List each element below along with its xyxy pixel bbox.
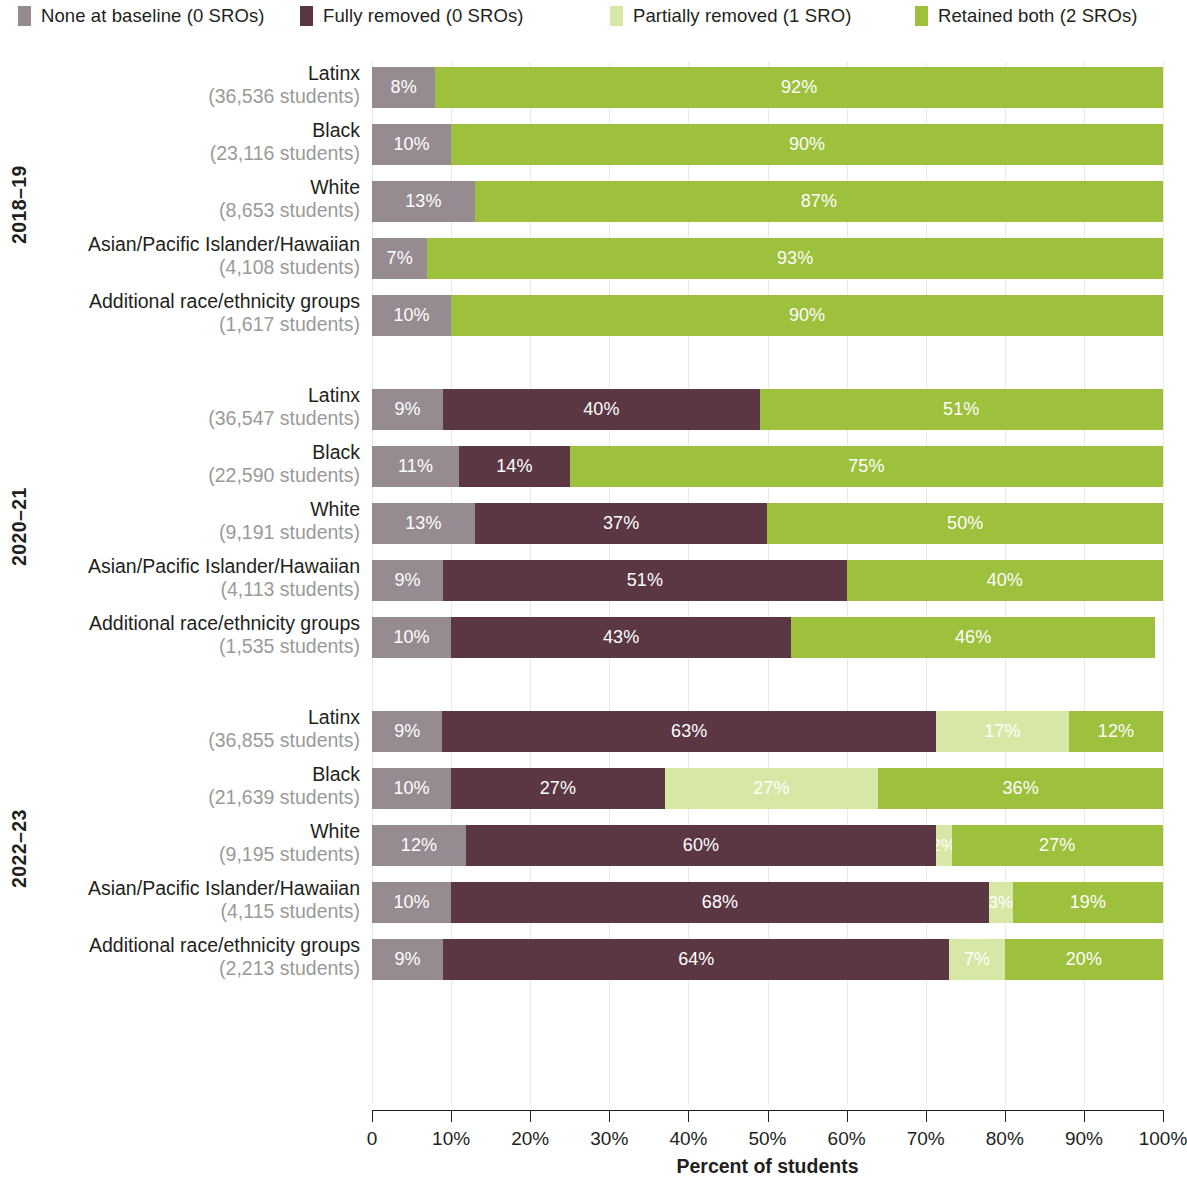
stacked-bar[interactable]: 10%27%27%36% <box>372 768 1163 809</box>
bar-segment[interactable]: 43% <box>451 617 791 658</box>
bar-segment[interactable]: 17% <box>936 711 1069 752</box>
stacked-bar[interactable]: 13%37%50% <box>372 503 1163 544</box>
bar-segment[interactable]: 64% <box>443 939 949 980</box>
stacked-bar[interactable]: 12%60%2%27% <box>372 825 1163 866</box>
bar-segment[interactable]: 13% <box>372 503 475 544</box>
bar-row-label: Latinx(36,855 students) <box>40 706 360 751</box>
bar-segment[interactable]: 9% <box>372 389 443 430</box>
x-axis-tick-label: 20% <box>511 1128 549 1150</box>
bar-segment[interactable]: 11% <box>372 446 459 487</box>
bar-row[interactable]: Additional race/ethnicity groups(1,617 s… <box>0 290 1187 347</box>
bar-segment-value: 64% <box>678 949 714 970</box>
bar-segment[interactable]: 36% <box>878 768 1163 809</box>
bar-segment[interactable]: 87% <box>475 181 1163 222</box>
stacked-bar-chart: 2018–19Latinx(36,536 students)8%92%Black… <box>0 0 1187 1187</box>
bar-segment[interactable]: 14% <box>459 446 570 487</box>
bar-row[interactable]: White(8,653 students)13%87% <box>0 176 1187 233</box>
bar-segment-value: 10% <box>393 778 429 799</box>
stacked-bar[interactable]: 9%40%51% <box>372 389 1163 430</box>
bar-row-count: (36,536 students) <box>40 85 360 108</box>
bar-segment-value: 27% <box>1039 835 1075 856</box>
bar-segment[interactable]: 10% <box>372 617 451 658</box>
bar-segment[interactable]: 37% <box>475 503 768 544</box>
stacked-bar[interactable]: 11%14%75% <box>372 446 1163 487</box>
bar-segment[interactable]: 50% <box>767 503 1163 544</box>
bar-segment-value: 87% <box>801 191 837 212</box>
bar-row[interactable]: White(9,191 students)13%37%50% <box>0 498 1187 555</box>
bar-segment[interactable]: 60% <box>466 825 936 866</box>
bar-segment[interactable]: 27% <box>665 768 879 809</box>
x-axis-tick-label: 90% <box>1065 1128 1103 1150</box>
stacked-bar[interactable]: 9%51%40% <box>372 560 1163 601</box>
bar-segment[interactable]: 90% <box>451 295 1163 336</box>
bar-row-label: White(9,191 students) <box>40 498 360 543</box>
bar-segment-value: 40% <box>987 570 1023 591</box>
bar-segment-value: 63% <box>671 721 707 742</box>
x-axis-tick <box>847 1110 848 1122</box>
x-axis-tick-label: 0 <box>367 1128 378 1150</box>
bar-segment[interactable]: 27% <box>952 825 1163 866</box>
bar-row-category: Latinx <box>40 62 360 85</box>
bar-row[interactable]: Black(23,116 students)10%90% <box>0 119 1187 176</box>
bar-segment-value: 9% <box>394 570 420 591</box>
year-group-1: 2020–21Latinx(36,547 students)9%40%51%Bl… <box>0 384 1187 669</box>
bar-segment[interactable]: 51% <box>443 560 846 601</box>
bar-row[interactable]: White(9,195 students)12%60%2%27% <box>0 820 1187 877</box>
bar-segment[interactable]: 51% <box>760 389 1163 430</box>
bar-row[interactable]: Asian/Pacific Islander/Hawaiian(4,113 st… <box>0 555 1187 612</box>
bar-segment[interactable]: 10% <box>372 295 451 336</box>
stacked-bar[interactable]: 10%68%3%19% <box>372 882 1163 923</box>
bar-segment[interactable]: 9% <box>372 560 443 601</box>
stacked-bar[interactable]: 10%43%46% <box>372 617 1163 658</box>
bar-segment-value: 46% <box>955 627 991 648</box>
bar-segment[interactable]: 9% <box>372 939 443 980</box>
bar-row[interactable]: Black(22,590 students)11%14%75% <box>0 441 1187 498</box>
bar-row-count: (36,547 students) <box>40 407 360 430</box>
bar-segment[interactable]: 68% <box>451 882 989 923</box>
bar-segment[interactable]: 93% <box>427 238 1163 279</box>
stacked-bar[interactable]: 9%64%7%20% <box>372 939 1163 980</box>
bar-segment[interactable]: 92% <box>435 67 1163 108</box>
bar-segment[interactable]: 9% <box>372 711 442 752</box>
bar-segment[interactable]: 7% <box>372 238 427 279</box>
stacked-bar[interactable]: 13%87% <box>372 181 1163 222</box>
stacked-bar[interactable]: 7%93% <box>372 238 1163 279</box>
bar-segment[interactable]: 20% <box>1005 939 1163 980</box>
bar-row[interactable]: Asian/Pacific Islander/Hawaiian(4,115 st… <box>0 877 1187 934</box>
bar-segment[interactable]: 46% <box>791 617 1155 658</box>
stacked-bar[interactable]: 9%63%17%12% <box>372 711 1163 752</box>
bar-segment[interactable]: 75% <box>570 446 1163 487</box>
bar-segment[interactable]: 19% <box>1013 882 1163 923</box>
bar-segment[interactable]: 3% <box>989 882 1013 923</box>
bar-segment[interactable]: 8% <box>372 67 435 108</box>
bar-segment[interactable]: 12% <box>1069 711 1163 752</box>
bar-row[interactable]: Additional race/ethnicity groups(1,535 s… <box>0 612 1187 669</box>
bar-segment[interactable]: 10% <box>372 124 451 165</box>
bar-segment[interactable]: 7% <box>949 939 1004 980</box>
bar-segment[interactable]: 90% <box>451 124 1163 165</box>
bar-row[interactable]: Latinx(36,855 students)9%63%17%12% <box>0 706 1187 763</box>
bar-row[interactable]: Additional race/ethnicity groups(2,213 s… <box>0 934 1187 991</box>
bar-segment-value: 50% <box>947 513 983 534</box>
bar-segment-value: 68% <box>702 892 738 913</box>
bar-row[interactable]: Latinx(36,547 students)9%40%51% <box>0 384 1187 441</box>
bar-segment[interactable]: 63% <box>442 711 935 752</box>
stacked-bar[interactable]: 10%90% <box>372 295 1163 336</box>
bar-row-label: Additional race/ethnicity groups(2,213 s… <box>40 934 360 979</box>
bar-row-count: (23,116 students) <box>40 142 360 165</box>
stacked-bar[interactable]: 8%92% <box>372 67 1163 108</box>
bar-segment[interactable]: 10% <box>372 882 451 923</box>
bar-segment[interactable]: 40% <box>443 389 759 430</box>
bar-segment[interactable]: 40% <box>847 560 1163 601</box>
stacked-bar[interactable]: 10%90% <box>372 124 1163 165</box>
bar-row[interactable]: Black(21,639 students)10%27%27%36% <box>0 763 1187 820</box>
bar-row[interactable]: Asian/Pacific Islander/Hawaiian(4,108 st… <box>0 233 1187 290</box>
x-axis-title: Percent of students <box>372 1155 1163 1178</box>
bar-segment[interactable]: 12% <box>372 825 466 866</box>
bar-segment[interactable]: 2% <box>936 825 952 866</box>
bar-segment[interactable]: 13% <box>372 181 475 222</box>
bar-row[interactable]: Latinx(36,536 students)8%92% <box>0 62 1187 119</box>
bar-segment[interactable]: 10% <box>372 768 451 809</box>
bar-segment-value: 7% <box>387 248 413 269</box>
bar-segment[interactable]: 27% <box>451 768 665 809</box>
